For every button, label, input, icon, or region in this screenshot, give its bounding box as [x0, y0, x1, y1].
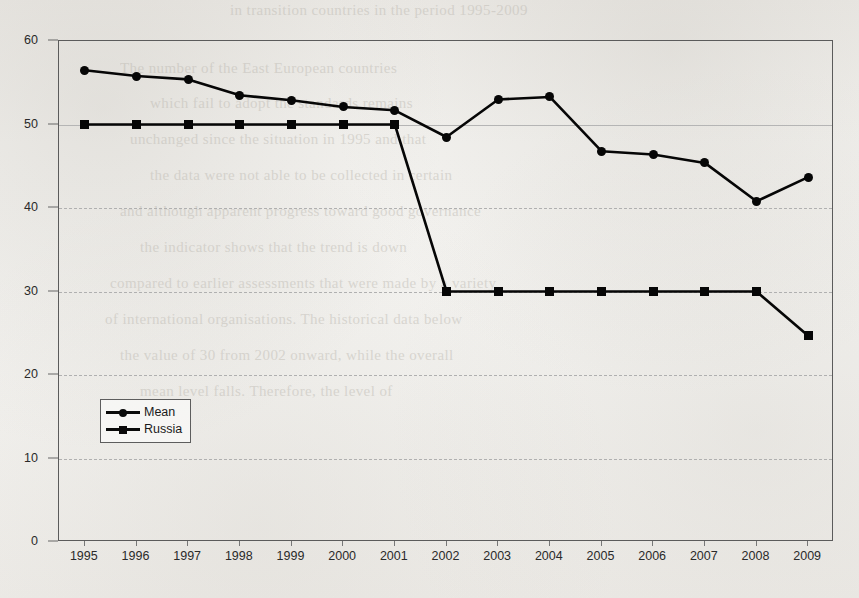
series-line-russia — [85, 125, 808, 336]
x-axis-tick-mark — [187, 541, 188, 546]
x-axis-tick-label: 2005 — [587, 549, 615, 563]
x-axis-tick-mark — [704, 541, 705, 546]
plot-area — [58, 40, 833, 541]
x-axis-tick-label: 2006 — [638, 549, 666, 563]
y-axis-tick-label: 40 — [0, 200, 46, 214]
legend-line-swatch — [106, 407, 140, 419]
x-axis-tick-label: 2008 — [742, 549, 770, 563]
y-axis-tick-mark — [48, 457, 58, 458]
line-chart: 0102030405060 19951996199719981999200020… — [0, 0, 859, 598]
y-axis-tick-label: 50 — [0, 117, 46, 131]
series-lines — [58, 40, 833, 541]
x-axis-tick-mark — [136, 541, 137, 546]
x-axis-tick-label: 1998 — [225, 549, 253, 563]
x-axis-tick-mark — [756, 541, 757, 546]
legend-entry-label: Mean — [144, 406, 175, 419]
y-axis-tick-label: 10 — [0, 451, 46, 465]
x-axis-tick-label: 2003 — [483, 549, 511, 563]
x-axis-tick-label: 2009 — [793, 549, 821, 563]
x-axis-tick-label: 1999 — [277, 549, 305, 563]
x-axis-tick-label: 1996 — [122, 549, 150, 563]
y-axis-tick-mark — [48, 40, 58, 41]
series-line-mean — [85, 70, 808, 201]
x-axis-tick-mark — [807, 541, 808, 546]
y-axis-tick-label: 30 — [0, 284, 46, 298]
x-axis-tick-mark — [446, 541, 447, 546]
x-axis-tick-mark — [84, 541, 85, 546]
legend-entry-russia: Russia — [106, 421, 182, 438]
y-axis-tick-label: 60 — [0, 33, 46, 47]
x-axis-tick-label: 2004 — [535, 549, 563, 563]
x-axis-tick-mark — [291, 541, 292, 546]
x-axis-tick-mark — [549, 541, 550, 546]
x-axis-tick-label: 1995 — [70, 549, 98, 563]
legend-entry-label: Russia — [144, 423, 182, 436]
x-axis-tick-label: 2001 — [380, 549, 408, 563]
x-axis-tick-mark — [601, 541, 602, 546]
y-axis-tick-mark — [48, 207, 58, 208]
y-axis-tick-label: 20 — [0, 367, 46, 381]
legend-line-swatch — [106, 424, 140, 436]
circle-marker-icon — [119, 409, 127, 417]
scanned-chart-page: in transition countries in the period 19… — [0, 0, 859, 598]
x-axis-tick-mark — [342, 541, 343, 546]
x-axis-tick-mark — [239, 541, 240, 546]
x-axis-tick-mark — [394, 541, 395, 546]
y-axis-tick-label: 0 — [0, 534, 46, 548]
x-axis-tick-mark — [652, 541, 653, 546]
x-axis-tick-label: 2002 — [432, 549, 460, 563]
legend-entry-mean: Mean — [106, 404, 182, 421]
y-axis-tick-mark — [48, 123, 58, 124]
x-axis-tick-label: 1997 — [173, 549, 201, 563]
x-axis-tick-mark — [497, 541, 498, 546]
x-axis-tick-label: 2000 — [328, 549, 356, 563]
y-axis-tick-mark — [48, 290, 58, 291]
square-marker-icon — [119, 426, 127, 434]
chart-legend: MeanRussia — [100, 399, 191, 443]
y-axis-tick-mark — [48, 374, 58, 375]
y-axis-tick-mark — [48, 541, 58, 542]
x-axis-tick-label: 2007 — [690, 549, 718, 563]
